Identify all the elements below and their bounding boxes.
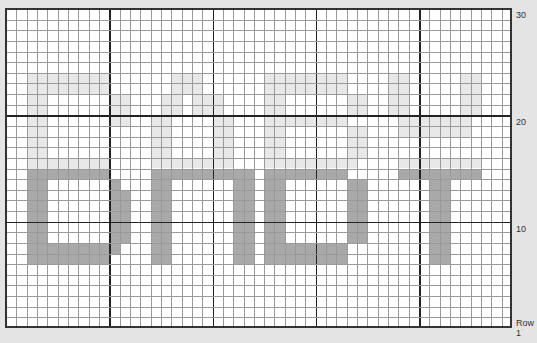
- grid-row-line: [6, 105, 512, 106]
- grid-row-line: [6, 169, 512, 170]
- grid-row-line: [6, 211, 512, 212]
- grid-row-line: [6, 147, 512, 148]
- grid-row-line: [6, 83, 512, 84]
- row-label-1: Row 1: [516, 318, 537, 338]
- grid-row-line: [6, 62, 512, 63]
- grid-row-line: [6, 254, 512, 255]
- row-label-30: 30: [516, 10, 526, 20]
- grid-row-line: [6, 52, 512, 53]
- grid-row-line: [6, 264, 512, 265]
- row-label-20: 20: [516, 117, 526, 127]
- grid-row-line: [6, 179, 512, 180]
- stitch-block: [264, 158, 357, 169]
- grid-row-line: [6, 94, 512, 95]
- grid-row-line: [6, 20, 512, 21]
- grid-row-line: [6, 30, 512, 31]
- grid-row-line: [6, 41, 512, 42]
- grid-row-line: [6, 317, 512, 318]
- grid-row-line: [6, 285, 512, 286]
- grid-row-line: [6, 158, 512, 159]
- grid-row-line: [6, 307, 512, 308]
- pattern-grid: [6, 9, 512, 328]
- grid-row-line: [6, 190, 512, 191]
- grid-row-line: [6, 137, 512, 138]
- grid-row-line: [6, 275, 512, 276]
- row-label-10: 10: [516, 224, 526, 234]
- grid-row-line: [6, 115, 512, 117]
- grid-row-line: [6, 73, 512, 74]
- grid-row-line: [6, 222, 512, 224]
- grid-row-line: [6, 243, 512, 244]
- stitch-block: [120, 190, 130, 243]
- grid-row-line: [6, 200, 512, 201]
- grid-row-line: [6, 126, 512, 127]
- grid-row-line: [6, 232, 512, 233]
- grid-row-line: [6, 296, 512, 297]
